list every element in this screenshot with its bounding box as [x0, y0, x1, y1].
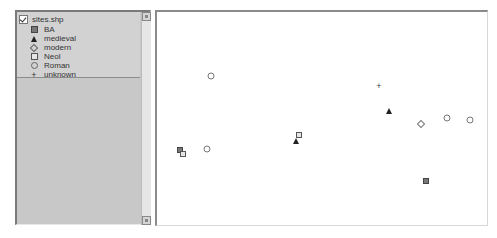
map-point-neol: [180, 151, 186, 157]
layer-row-sites[interactable]: sites.shp: [19, 14, 64, 24]
layer-visibility-checkbox[interactable]: [19, 15, 28, 24]
legend-item-modern: modern: [30, 43, 71, 52]
legend-label: Neol: [44, 52, 60, 61]
legend-item-medieval: medieval: [30, 34, 76, 43]
map-point-roman: [444, 115, 451, 122]
legend-item-unknown: + unknown: [30, 70, 76, 79]
plus-icon: +: [30, 71, 38, 79]
layer-name: sites.shp: [32, 15, 64, 24]
scroll-up-button[interactable]: [142, 12, 151, 21]
triangle-icon: [30, 35, 38, 43]
table-of-contents-panel: sites.shp BA medieval modern Neol Roman …: [15, 10, 151, 225]
filled-square-icon: [30, 26, 38, 34]
legend-item-roman: Roman: [30, 61, 70, 70]
scroll-down-button[interactable]: [142, 216, 151, 225]
map-point-modern: [417, 120, 425, 128]
map-point-medieval: [293, 138, 299, 144]
legend-label: modern: [44, 43, 71, 52]
legend-label: medieval: [44, 34, 76, 43]
legend-label: unknown: [44, 70, 76, 79]
legend-item-neol: Neol: [30, 52, 60, 61]
map-point-roman: [204, 146, 211, 153]
map-view[interactable]: +: [155, 10, 488, 226]
map-point-ba: [423, 178, 429, 184]
legend-item-ba: BA: [30, 25, 55, 34]
layer-legend-block: sites.shp BA medieval modern Neol Roman …: [17, 12, 140, 78]
map-point-roman: [208, 73, 215, 80]
diamond-icon: [30, 44, 38, 52]
map-point-roman: [467, 117, 474, 124]
legend-label: Roman: [44, 61, 70, 70]
circle-icon: [30, 62, 38, 70]
map-point-unknown: +: [376, 82, 381, 91]
toc-scrollbar[interactable]: [141, 12, 151, 225]
legend-label: BA: [44, 25, 55, 34]
square-outline-icon: [30, 53, 38, 61]
map-point-medieval: [386, 108, 392, 114]
